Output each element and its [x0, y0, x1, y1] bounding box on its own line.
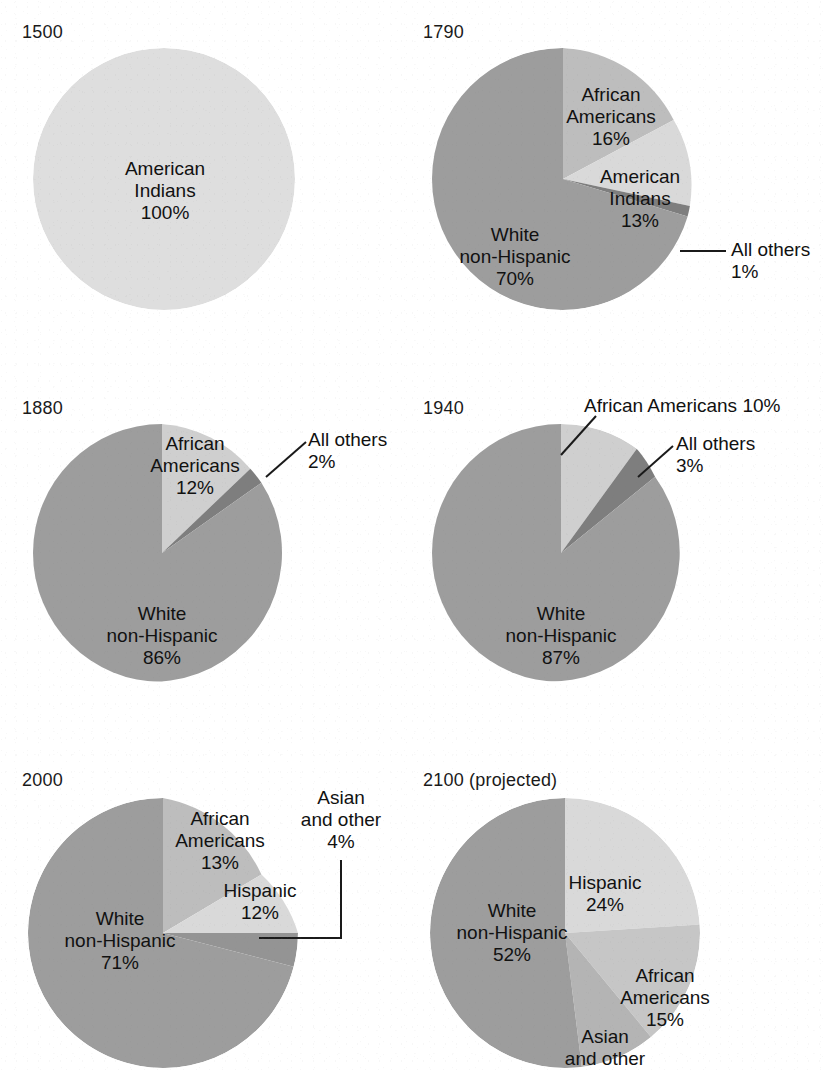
slice-label-line: 12% [205, 902, 315, 924]
leader-line-all-others-1790 [680, 248, 730, 254]
year-label-1500: 1500 [22, 22, 63, 43]
slice-label-all-others-1880: All others 2% [308, 429, 428, 473]
slice-label-white-non-hispanic-1880: White non-Hispanic 86% [92, 603, 232, 669]
slice-label-line: non-Hispanic [491, 625, 631, 647]
slice-label-line: Americans [600, 987, 730, 1009]
slice-label-line: American [110, 158, 220, 180]
slice-label-line: African [551, 84, 671, 106]
population-composition-pie-figure: 1500 American Indians 100% 1790 [0, 0, 824, 1070]
slice-label-line: 12% [130, 477, 260, 499]
slice-label-line: Indians [580, 188, 700, 210]
year-label-2100: 2100 (projected) [423, 770, 557, 791]
slice-label-american-indians-1790: American Indians 13% [580, 166, 700, 232]
slice-label-line: White [50, 908, 190, 930]
slice-label-line: All others [308, 429, 428, 451]
slice-label-line: and other [540, 1048, 670, 1070]
slice-label-line: White [445, 224, 585, 246]
year-label-1940: 1940 [423, 398, 464, 419]
slice-label-line: Americans [155, 830, 285, 852]
slice-label-african-americans-1790: African Americans 16% [551, 84, 671, 150]
slice-label-line: All others [676, 433, 796, 455]
year-label-1790: 1790 [423, 22, 464, 43]
slice-label-african-americans-1880: African Americans 12% [130, 433, 260, 499]
slice-label-african-americans-1940: African Americans 10% [584, 395, 824, 417]
slice-label-line: non-Hispanic [445, 246, 585, 268]
slice-label-all-others-1790: All others 1% [731, 239, 824, 283]
slice-label-line: Indians [110, 180, 220, 202]
slice-label-line: White [442, 900, 582, 922]
slice-label-line: American [580, 166, 700, 188]
slice-label-line: Asian [540, 1026, 670, 1048]
slice-label-line: 2% [308, 451, 428, 473]
slice-label-line: 13% [580, 210, 700, 232]
slice-label-line: Hispanic [545, 872, 665, 894]
slice-label-line: 86% [92, 647, 232, 669]
slice-label-line: 100% [110, 202, 220, 224]
slice-label-white-non-hispanic-1790: White non-Hispanic 70% [445, 224, 585, 290]
slice-label-line: African [155, 808, 285, 830]
slice-label-asian-and-other-2100: Asian and other [540, 1026, 670, 1070]
slice-label-line: Americans [551, 106, 671, 128]
slice-label-line: Asian [276, 787, 406, 809]
slice-label-asian-and-other-2000: Asian and other 4% [276, 787, 406, 853]
slice-label-line: non-Hispanic [92, 625, 232, 647]
slice-label-white-non-hispanic-2100: White non-Hispanic 52% [442, 900, 582, 966]
slice-label-white-non-hispanic-1940: White non-Hispanic 87% [491, 603, 631, 669]
slice-label-line: African Americans 10% [584, 395, 824, 417]
slice-label-line: Hispanic [205, 880, 315, 902]
slice-label-african-americans-2100: African Americans 15% [600, 965, 730, 1031]
slice-label-line: White [491, 603, 631, 625]
leader-line-all-others-1880 [264, 440, 310, 480]
slice-label-line: 13% [155, 852, 285, 874]
slice-label-line: 71% [50, 952, 190, 974]
slice-label-line: 3% [676, 455, 796, 477]
year-label-1880: 1880 [22, 398, 63, 419]
slice-label-line: non-Hispanic [442, 922, 582, 944]
slice-label-line: and other [276, 809, 406, 831]
slice-label-american-indians-1500: American Indians 100% [110, 158, 220, 224]
slice-label-line: Americans [130, 455, 260, 477]
slice-label-line: White [92, 603, 232, 625]
slice-label-hispanic-2000: Hispanic 12% [205, 880, 315, 924]
year-label-2000: 2000 [22, 770, 63, 791]
slice-label-line: 70% [445, 268, 585, 290]
slice-label-african-americans-2000: African Americans 13% [155, 808, 285, 874]
slice-label-line: 1% [731, 261, 824, 283]
slice-label-line: 4% [276, 831, 406, 853]
slice-label-line: 52% [442, 944, 582, 966]
slice-label-white-non-hispanic-2000: White non-Hispanic 71% [50, 908, 190, 974]
slice-label-line: African [130, 433, 260, 455]
slice-label-line: non-Hispanic [50, 930, 190, 952]
slice-label-line: 16% [551, 128, 671, 150]
slice-label-all-others-1940: All others 3% [676, 433, 796, 477]
slice-label-line: All others [731, 239, 824, 261]
slice-label-line: African [600, 965, 730, 987]
slice-label-line: 87% [491, 647, 631, 669]
